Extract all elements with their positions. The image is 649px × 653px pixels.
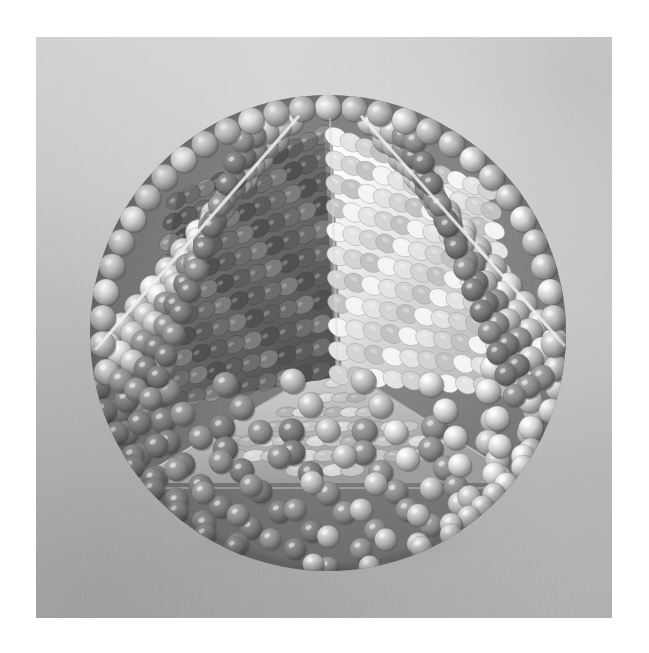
film-grain-overlay (36, 37, 612, 618)
render-plate (36, 37, 612, 618)
page-root: Cutaway model of a close-packed spherica… (0, 0, 649, 653)
